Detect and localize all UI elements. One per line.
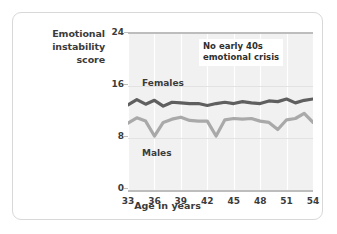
series-label-females: Females <box>142 78 184 88</box>
series-label-males: Males <box>142 148 172 158</box>
plot-area-wrapper: 081624 3336394245485154 Females Males No… <box>116 25 316 195</box>
series-line-males <box>128 113 313 136</box>
y-tick-mark <box>124 136 128 137</box>
annotation-line-2: emotional crisis <box>203 52 279 63</box>
figure-panel: Emotional instability score 081624 33363… <box>12 12 323 220</box>
annotation-line-1: No early 40s <box>203 41 279 52</box>
y-tick-mark <box>124 188 128 189</box>
chart-annotation: No early 40s emotional crisis <box>199 39 283 66</box>
y-axis-title: Emotional instability score <box>21 27 105 66</box>
y-tick-mark <box>124 84 128 85</box>
y-tick-mark <box>124 32 128 33</box>
series-line-females <box>128 99 313 106</box>
x-axis-title: Age in years <box>13 200 322 211</box>
y-tick-label: 16 <box>111 79 124 89</box>
y-tick-label: 24 <box>111 27 124 37</box>
